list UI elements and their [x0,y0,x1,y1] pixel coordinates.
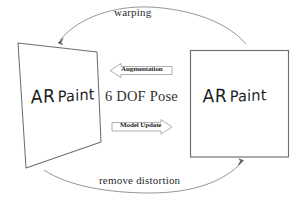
top-arc-path [60,7,246,44]
warped-view-ar-text: AR [31,85,56,108]
warped-view-paint-text: Paint [58,86,95,106]
six-dof-pose-label: 6 DOF Pose [105,88,178,105]
top-arc-arrow [58,7,246,45]
remove-distortion-label: remove distortion [99,174,180,186]
augmentation-label: Augmentation [121,65,163,73]
rectified-view-ar-text: AR [202,85,227,107]
diagram-canvas: warping remove distortion 6 DOF Pose Aug… [0,0,300,198]
model-update-label: Model Update [120,121,161,129]
rectified-view-handwriting: ARPaint [203,84,268,106]
warping-label: warping [114,6,151,18]
bottom-arc-arrowhead [238,159,243,165]
warped-view-handwriting: ARPaint [31,83,95,107]
rectified-view-paint-text: Paint [230,86,267,105]
